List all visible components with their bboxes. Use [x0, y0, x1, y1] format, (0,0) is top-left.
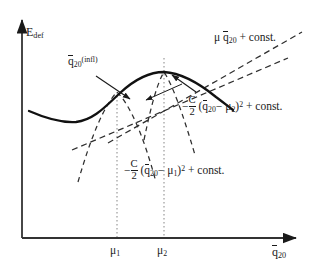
frac-numerator-c2: C [189, 95, 196, 106]
deformation-energy-figure: Edef q20 q20(infl) μ q20 + const. −C2 (q… [0, 0, 319, 272]
frac-numerator-c1: C [131, 159, 138, 170]
parabola-mu2-equation: −C2 (q20− μ2)2 + const. [182, 95, 282, 118]
parabola-mu1-equation: −C2 (q20− μ1)2 + const. [124, 159, 224, 182]
inflection-label: q20(infl) [68, 56, 98, 69]
y-axis-label: Edef [26, 26, 44, 40]
frac-denominator-c2: 2 [189, 106, 196, 118]
tangent-line-equation: μ q20 + const. [214, 32, 276, 45]
x-tick-label-mu2: μ2 [157, 245, 167, 258]
frac-denominator-c1: 2 [131, 170, 138, 182]
x-tick-label-mu1: μ1 [110, 245, 120, 258]
x-axis-label: q20 [272, 246, 286, 260]
